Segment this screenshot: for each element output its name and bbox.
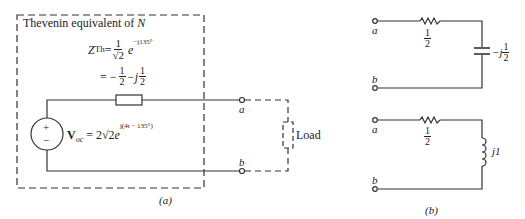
terminal-b-label: b [239,157,245,168]
b-bottom-inductor-value: j1 [492,146,501,157]
b-top-terminal-b-label: b [372,74,378,85]
b-bottom-resistor-icon [420,117,440,123]
enclosure-title: Thevenin equivalent of N [23,17,145,29]
zth-equation-line1: ZTh= 1√2 e−j135° [88,38,153,61]
b-top-capacitor-prefix: −j [492,47,502,58]
load-box [283,122,293,148]
voc-eq: = 2√2 [83,128,114,142]
b-top-resistor-value: 12 [424,28,431,49]
source-minus: − [43,135,49,146]
zth-line2-eq: = − [100,71,117,83]
load-label: Load [296,129,321,141]
voc-exp-base: e [115,128,120,142]
b-top-capacitor-value: −j 12 [492,42,509,63]
b-bottom-resistor-value: 12 [424,126,431,147]
zth-coefficient: 1√2 [111,38,125,61]
b-top-terminal-a-label: a [372,25,378,36]
circuit-drawing [0,0,525,219]
load-wire-top [245,100,288,122]
terminal-a-label: a [239,104,245,115]
b-bottom-terminal-b-node [373,187,378,192]
zth-real-den: 2 [119,77,126,87]
impedance-zth [116,95,142,105]
b-top-resistor-icon [420,18,440,24]
zth-exponent: −j135° [133,39,152,46]
b-bottom-resistor-den: 2 [424,137,431,147]
voc-symbol: V [67,128,76,142]
zth-coef-den: √2 [111,50,125,61]
caption-b: (b) [425,205,438,216]
zth-subscript: Th [95,45,105,54]
load-wire-bottom [245,148,288,171]
caption-a: (a) [159,195,172,206]
b-top-terminal-b-node [373,86,378,91]
voc-exponent: j(4t − 135°) [120,122,153,130]
wire-top-left [47,100,116,118]
b-bottom-terminal-a-node [373,118,378,123]
b-bottom-terminal-a-label: a [372,124,378,135]
terminal-a-node [240,98,245,103]
b-top-capacitor-den: 2 [502,53,509,63]
b-bottom-terminal-b-label: b [372,175,378,186]
b-top-resistor-den: 2 [424,39,431,49]
terminal-b-node [240,169,245,174]
network-name: N [137,16,145,30]
b-top-terminal-a-node [373,19,378,24]
voc-equation: Voc = 2√2ej(4t − 135°) [67,129,153,144]
source-plus: + [43,122,49,133]
zth-eq: = [105,44,112,56]
b-bottom-inductor-icon [482,138,486,166]
zth-imag-part: 12 [139,66,146,87]
zth-symbol: Z [88,44,95,56]
zth-real-part: 12 [119,66,126,87]
wire-bottom [47,150,239,171]
zth-line2-mid: −j [127,71,138,83]
zth-imag-den: 2 [139,77,146,87]
enclosure-title-text: Thevenin equivalent of [23,16,137,30]
zth-equation-line2: = − 12 −j 12 [100,66,146,87]
